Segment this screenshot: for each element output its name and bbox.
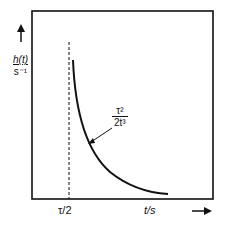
- y-axis-label-denominator: s⁻¹: [11, 65, 30, 77]
- tau-half-tick-label: τ/2: [58, 205, 72, 216]
- curve-annotation-denominator: 2t³: [112, 116, 128, 128]
- arrow-up-icon: [17, 24, 25, 32]
- x-axis-label: t/s: [144, 205, 156, 216]
- y-axis-label: h(t) s⁻¹: [11, 55, 30, 77]
- curve-annotation: τ² 2t³: [112, 106, 128, 128]
- curve-annotation-numerator: τ²: [112, 106, 128, 116]
- annotation-arrow-line: [91, 128, 112, 142]
- y-axis-label-numerator: h(t): [11, 55, 30, 65]
- arrow-right-icon: [204, 207, 212, 215]
